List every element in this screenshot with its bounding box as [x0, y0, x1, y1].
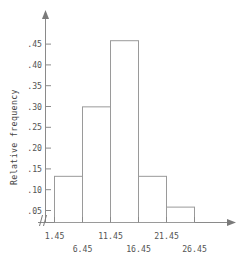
- y-tick-label: .05: [27, 206, 42, 216]
- y-tick-label: .15: [27, 164, 42, 174]
- y-tick-label: .10: [27, 185, 42, 195]
- y-tick-label: .25: [27, 122, 42, 132]
- table-row: [111, 41, 139, 223]
- y-tick-label: .40: [27, 60, 42, 70]
- table-row: [167, 207, 195, 222]
- y-tick-label: .35: [27, 81, 42, 91]
- table-row: [139, 176, 167, 222]
- histogram-chart: .45 .40 .35 .30 .25 .20 .15 .10 .05 Rela…: [0, 0, 243, 266]
- histogram-bars: [55, 41, 195, 223]
- y-tick-label: .30: [27, 102, 42, 112]
- x-tick-label: 21.45: [154, 231, 179, 241]
- x-tick-label: 11.45: [98, 231, 123, 241]
- x-axis-tick-labels: 1.45 6.45 11.45 16.45 21.45 26.45: [45, 231, 207, 254]
- table-row: [83, 107, 111, 223]
- x-axis-arrow-icon: [227, 219, 236, 226]
- table-row: [55, 176, 83, 222]
- y-axis-arrow-icon: [42, 10, 49, 19]
- y-axis-title: Relative frequency: [9, 89, 19, 185]
- histogram-svg: .45 .40 .35 .30 .25 .20 .15 .10 .05 Rela…: [0, 0, 243, 266]
- x-tick-label: 1.45: [45, 231, 65, 241]
- y-tick-label: .45: [27, 39, 42, 49]
- x-tick-label: 16.45: [126, 244, 151, 254]
- y-axis-tick-labels: .45 .40 .35 .30 .25 .20 .15 .10 .05: [27, 39, 42, 215]
- x-tick-label: 6.45: [73, 244, 93, 254]
- x-axis-ticks: [55, 217, 195, 223]
- y-axis-ticks: [46, 44, 52, 210]
- x-tick-label: 26.45: [182, 244, 207, 254]
- y-tick-label: .20: [27, 143, 42, 153]
